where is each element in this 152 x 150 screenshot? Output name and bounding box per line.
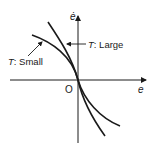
label-t-large: T: Large: [88, 39, 123, 50]
origin-label: O: [65, 84, 73, 95]
label-t-small: T: Small: [8, 56, 43, 67]
phase-plane-diagram: ė e O T: Large T: Small: [0, 0, 152, 150]
label-t-small-value: Small: [19, 56, 43, 67]
label-t-large-value: Large: [99, 39, 123, 50]
y-axis-label: ė: [70, 11, 76, 22]
leader-arrow-small: [28, 42, 42, 56]
x-axis-label: e: [138, 84, 144, 95]
